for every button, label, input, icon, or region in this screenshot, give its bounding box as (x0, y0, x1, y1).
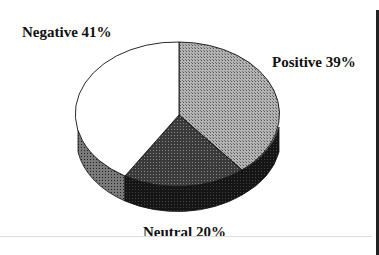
pie-top (75, 42, 279, 187)
label-neutral: Neutral 20% (143, 224, 226, 241)
label-positive: Positive 39% (272, 54, 356, 71)
label-negative: Negative 41% (22, 24, 112, 41)
divider-line (0, 236, 372, 237)
